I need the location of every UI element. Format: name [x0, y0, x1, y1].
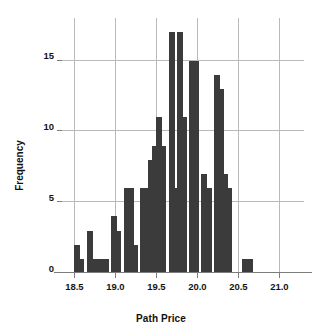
y-tick-label: 0 — [30, 264, 54, 274]
x-tick-label: 20.5 — [218, 281, 258, 292]
x-tick-mark — [115, 273, 116, 278]
x-tick-mark — [279, 273, 280, 278]
y-axis-title: Frequency — [14, 5, 25, 327]
x-tick-mark — [238, 273, 239, 278]
histogram-bar — [115, 231, 121, 274]
histogram-bar — [103, 259, 109, 273]
plot-area: 18.519.019.520.020.521.0051015 — [62, 18, 304, 273]
x-tick-mark — [74, 273, 75, 278]
histogram-bar — [78, 259, 84, 273]
y-tick-mark — [57, 201, 62, 202]
histogram-bar — [160, 146, 166, 274]
x-tick-label: 21.0 — [259, 281, 299, 292]
x-tick-label: 19.5 — [136, 281, 176, 292]
y-tick-label: 5 — [30, 193, 54, 203]
x-tick-label: 18.5 — [54, 281, 94, 292]
y-axis-title-container: Frequency — [0, 0, 22, 335]
x-tick-label: 20.0 — [177, 281, 217, 292]
y-tick-mark — [57, 130, 62, 131]
histogram-bar — [193, 61, 199, 274]
y-tick-mark — [57, 60, 62, 61]
y-tick-mark — [57, 272, 62, 273]
histogram-bar — [206, 188, 212, 273]
x-tick-mark — [197, 273, 198, 278]
y-tick-label: 10 — [30, 122, 54, 132]
x-axis-line — [54, 272, 312, 273]
histogram-bar — [181, 117, 187, 273]
histogram-bar — [132, 245, 138, 273]
x-tick-label: 19.0 — [95, 281, 135, 292]
x-tick-mark — [156, 273, 157, 278]
bars-layer — [62, 18, 304, 273]
x-axis-title: Path Price — [0, 313, 322, 324]
histogram-bar — [226, 188, 232, 273]
histogram-figure: Frequency 18.519.019.520.020.521.0051015… — [0, 0, 322, 335]
y-tick-label: 15 — [30, 51, 54, 61]
histogram-bar — [247, 259, 253, 273]
